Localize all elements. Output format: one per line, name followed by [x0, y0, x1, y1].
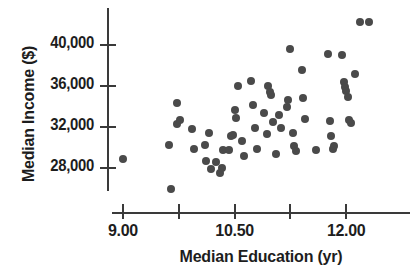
data-point: [165, 141, 173, 149]
data-point: [275, 111, 283, 119]
data-point: [327, 132, 335, 140]
data-point: [301, 115, 309, 123]
data-point: [356, 18, 364, 26]
data-point: [347, 119, 355, 127]
data-point: [326, 117, 334, 125]
data-point: [231, 106, 239, 114]
data-point: [263, 130, 271, 138]
data-point: [365, 18, 373, 26]
data-point: [249, 101, 257, 109]
data-point: [344, 93, 352, 101]
scatter-plot: 40,00036,00032,00028,000 9.0010.5012.00 …: [0, 0, 412, 275]
data-point: [201, 141, 209, 149]
data-point: [284, 96, 292, 104]
data-point: [286, 45, 294, 53]
data-point: [260, 109, 268, 117]
data-point: [212, 158, 220, 166]
data-point: [247, 77, 255, 85]
data-point: [202, 157, 210, 165]
data-point: [253, 145, 261, 153]
data-point: [238, 137, 246, 145]
data-point: [167, 185, 175, 193]
data-point: [240, 152, 248, 160]
data-point: [188, 125, 196, 133]
data-point: [207, 165, 215, 173]
data-point: [232, 114, 240, 122]
data-point: [173, 99, 181, 107]
data-point: [269, 118, 277, 126]
data-point: [251, 124, 259, 132]
data-point: [272, 150, 280, 158]
data-point: [227, 132, 235, 140]
data-point: [218, 164, 226, 172]
data-point: [324, 50, 332, 58]
data-point: [338, 51, 346, 59]
data-point: [176, 116, 184, 124]
data-point: [292, 147, 300, 155]
data-point: [277, 124, 285, 132]
data-point: [312, 146, 320, 154]
data-point: [225, 146, 233, 154]
data-point: [190, 145, 198, 153]
data-point: [299, 94, 307, 102]
data-point: [289, 129, 297, 137]
data-point: [234, 82, 242, 90]
data-points-layer: [0, 0, 412, 275]
data-point: [298, 66, 306, 74]
data-point: [119, 155, 127, 163]
data-point: [351, 70, 359, 78]
data-point: [330, 142, 338, 150]
data-point: [267, 91, 275, 99]
data-point: [205, 129, 213, 137]
